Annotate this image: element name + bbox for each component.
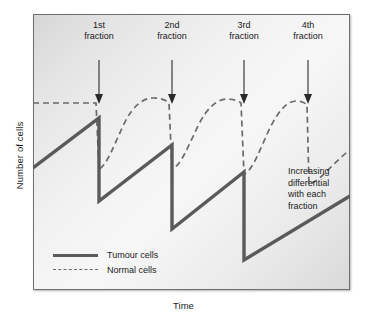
fraction-arrow-2 [168,60,176,104]
differential-annotation: Increasing differential with each fracti… [288,166,350,212]
legend-item-tumour: Tumour cells [53,247,158,262]
figure-container: 1st fraction 2nd fraction 3rd fraction 4… [0,0,367,323]
annotation-line-4: fraction [288,201,350,213]
fraction-label-1-line2: fraction [71,31,127,42]
legend-item-normal: Normal cells [53,262,158,277]
legend-label-normal: Normal cells [107,265,157,275]
fraction-arrow-1 [95,60,103,104]
fraction-label-3-line2: fraction [216,31,272,42]
fraction-label-3: 3rd fraction [216,20,272,42]
fraction-label-2: 2nd fraction [144,20,200,42]
legend-swatch-solid-line-icon [53,250,98,260]
fraction-label-1: 1st fraction [71,20,127,42]
legend-swatch-dashed-line-icon [53,265,98,275]
fraction-label-4-line2: fraction [280,31,336,42]
y-axis-label: Number of cells [14,101,25,211]
legend-label-tumour: Tumour cells [107,250,158,260]
annotation-line-2: differential [288,178,350,190]
annotation-line-1: Increasing [288,166,350,178]
annotation-line-3: with each [288,189,350,201]
fraction-label-4-line1: 4th [280,20,336,31]
fraction-label-3-line1: 3rd [216,20,272,31]
legend: Tumour cells Normal cells [53,247,158,277]
x-axis-label: Time [0,300,367,311]
fraction-arrow-3 [240,60,248,104]
fraction-label-2-line1: 2nd [144,20,200,31]
fraction-label-1-line1: 1st [71,20,127,31]
fraction-arrow-4 [304,60,312,104]
fraction-label-4: 4th fraction [280,20,336,42]
fraction-label-2-line2: fraction [144,31,200,42]
fraction-arrows [95,60,312,104]
